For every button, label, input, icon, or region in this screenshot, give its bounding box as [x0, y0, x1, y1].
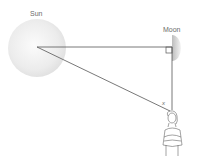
moon-label: Moon: [163, 26, 181, 33]
sun-observer-line: [37, 47, 170, 111]
right-angle-marker: [166, 47, 172, 53]
sun-moon-earth-diagram: [0, 0, 199, 161]
observer-figure: [163, 111, 182, 156]
sun: [8, 19, 66, 77]
moon: [172, 35, 181, 61]
sun-label: Sun: [30, 10, 42, 17]
angle-x-label: x: [162, 100, 165, 106]
